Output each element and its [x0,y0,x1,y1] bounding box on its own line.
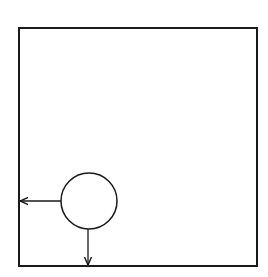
diagram-canvas [0,0,268,277]
circle-body [61,173,117,229]
square-boundary [19,28,257,266]
diagram-figure [0,0,268,277]
